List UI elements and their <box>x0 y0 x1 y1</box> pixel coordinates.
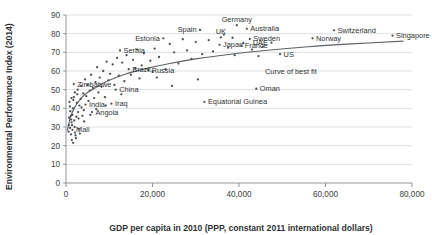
point-label: Equatorial Guinea <box>208 97 268 106</box>
data-point <box>80 98 82 100</box>
data-point <box>197 78 199 80</box>
data-point <box>74 91 76 93</box>
data-point <box>333 29 335 31</box>
data-point <box>116 57 118 59</box>
point-label: Mali <box>76 125 90 134</box>
data-point <box>71 114 73 116</box>
data-point <box>90 74 92 76</box>
data-point <box>158 56 160 58</box>
data-point <box>123 80 125 82</box>
y-axis-title: Environmental Performance Index (2014) <box>4 23 14 190</box>
point-label: Russia <box>152 66 175 75</box>
data-point <box>119 49 121 51</box>
data-point <box>162 37 164 39</box>
data-point <box>149 60 151 62</box>
data-point <box>84 103 86 105</box>
data-point <box>78 104 80 106</box>
data-point <box>249 38 251 40</box>
data-point <box>83 109 85 111</box>
data-point <box>71 129 73 131</box>
data-point <box>76 102 78 104</box>
data-point <box>177 62 179 64</box>
data-point <box>77 111 79 113</box>
point-label: Singapore <box>396 31 430 40</box>
data-point <box>311 37 313 39</box>
point-label: Spain <box>178 25 197 34</box>
data-point <box>85 95 87 97</box>
x-tick-label: 80,000 <box>399 190 424 199</box>
data-point <box>130 74 132 76</box>
data-point <box>208 39 210 41</box>
point-label: Australia <box>250 24 280 33</box>
data-point <box>138 77 140 79</box>
data-point <box>69 110 71 112</box>
chart-canvas: 0102030405060708090 020,00040,00060,0008… <box>0 0 432 235</box>
data-point <box>68 101 70 103</box>
data-point <box>72 142 74 144</box>
scatter-chart: 0102030405060708090 020,00040,00060,0008… <box>0 0 432 235</box>
data-point <box>70 121 72 123</box>
y-tick-label: 20 <box>51 142 61 151</box>
y-tick-label: 0 <box>55 179 60 188</box>
point-label: UK <box>216 27 226 36</box>
point-label: China <box>119 85 139 94</box>
data-point <box>182 38 184 40</box>
data-point <box>128 68 130 70</box>
data-point <box>91 111 93 113</box>
data-point <box>77 117 79 119</box>
data-point <box>70 133 72 135</box>
data-point <box>89 114 91 116</box>
data-point <box>73 96 75 98</box>
data-point <box>106 61 108 63</box>
data-point <box>118 75 120 77</box>
point-label: Serbia <box>124 46 146 55</box>
data-point <box>218 44 220 46</box>
data-point <box>72 107 74 109</box>
point-label: Brazil <box>132 65 151 74</box>
data-point <box>74 134 76 136</box>
data-point <box>72 99 74 101</box>
x-axis-title: GDP per capita in 2010 (PPP, constant 20… <box>109 223 372 233</box>
data-point <box>231 37 233 39</box>
data-point <box>391 34 393 36</box>
data-point <box>70 118 72 120</box>
data-point <box>99 76 101 78</box>
data-point <box>112 63 114 65</box>
data-point <box>67 131 69 133</box>
data-point <box>104 96 106 98</box>
data-point <box>68 117 70 119</box>
y-tick-labels: 0102030405060708090 <box>51 11 61 188</box>
data-point <box>69 105 71 107</box>
data-point <box>113 84 115 86</box>
x-tick-labels: 020,00040,00060,00080,000 <box>64 190 425 199</box>
y-tick-label: 80 <box>51 30 61 39</box>
data-point <box>80 106 82 108</box>
data-point <box>203 101 205 103</box>
data-point <box>220 36 222 38</box>
data-point <box>246 28 248 30</box>
data-point <box>186 49 188 51</box>
data-point <box>102 70 104 72</box>
y-tick-label: 10 <box>51 160 61 169</box>
x-tick-label: 60,000 <box>313 190 338 199</box>
data-point <box>71 124 73 126</box>
chart-annotations: Curve of best fit <box>265 67 317 76</box>
point-label: US <box>284 50 294 59</box>
data-point <box>89 89 91 91</box>
data-point <box>69 127 71 129</box>
data-point <box>68 124 70 126</box>
data-point <box>110 103 112 105</box>
data-point <box>279 53 281 55</box>
point-label: UAE <box>253 38 268 47</box>
data-point <box>234 54 236 56</box>
data-point <box>109 73 111 75</box>
x-tick-label: 40,000 <box>226 190 251 199</box>
data-point <box>173 51 175 53</box>
data-point <box>75 116 77 118</box>
x-tick-label: 0 <box>64 190 69 199</box>
data-point <box>73 119 75 121</box>
y-tick-label: 70 <box>51 48 61 57</box>
data-point <box>121 61 123 63</box>
data-point <box>212 50 214 52</box>
point-label: Norway <box>316 34 341 43</box>
